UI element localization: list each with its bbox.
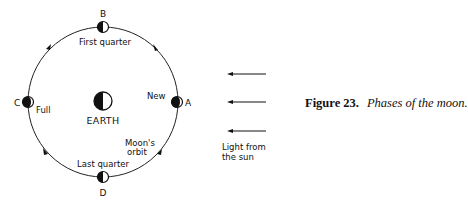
orbit-arrow-icon [157,149,162,155]
point-label-a: A [185,98,192,108]
figure-caption: Figure 23.Phases of the moon. [305,96,468,111]
moon-a-icon [172,97,183,108]
phase-label-last-quarter: Last quarter [77,159,129,169]
point-label-b: B [100,9,106,19]
sunlight-label-line2: the sun [222,152,254,162]
sunlight-arrow-icon [227,72,266,76]
orbit-arrow-icon [153,44,158,51]
earth-label: EARTH [87,115,120,126]
point-label-c: C [14,98,20,108]
sunlight-label-line1: Light from [222,142,266,152]
phase-label-new: New [147,91,166,101]
moon-c-icon [23,97,34,108]
sunlight-arrow-icon [227,100,266,104]
moon-d-icon [98,172,109,183]
figure-title: Phases of the moon. [367,96,468,110]
phase-label-full: Full [36,105,51,115]
orbit-label-line2: orbit [127,147,147,157]
moon-b-icon [98,22,109,33]
figure-number: Figure 23. [305,96,359,110]
earth-icon [94,92,112,110]
phase-label-first-quarter: First quarter [79,37,132,47]
sunlight-arrows [227,72,266,133]
sunlight-arrow-icon [227,129,266,133]
point-label-d: D [100,188,107,198]
